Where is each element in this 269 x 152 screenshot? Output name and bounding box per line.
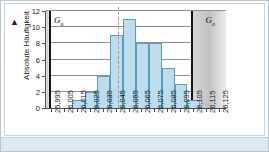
y-axis-arrow: ▲ <box>10 18 19 27</box>
y-tick-mark <box>42 11 45 12</box>
y-tick-mark <box>42 60 45 61</box>
upper-limit-label: Go <box>205 15 215 27</box>
upper-limit-sub: o <box>212 21 215 27</box>
y-tick-label: 0 <box>26 105 40 113</box>
x-tick-label: 26,055 <box>132 90 140 113</box>
y-tick-mark <box>42 108 45 109</box>
y-tick-label: 8 <box>26 40 40 48</box>
x-tick-label: 25,995 <box>54 90 62 113</box>
x-tick-label: 26,085 <box>170 90 178 113</box>
x-tick-mark <box>77 109 78 112</box>
x-tick-mark <box>167 109 168 112</box>
x-tick-mark <box>219 109 220 112</box>
y-tick-label: 4 <box>26 73 40 81</box>
y-tick-mark <box>42 76 45 77</box>
y-tick-label: 2 <box>26 89 40 97</box>
x-tick-mark <box>116 109 117 112</box>
y-tick-mark <box>42 43 45 44</box>
x-tick-label: 26,005 <box>67 90 75 113</box>
x-tick-mark <box>180 109 181 112</box>
x-tick-label: 26,105 <box>196 90 204 113</box>
lower-spec-limit-band <box>46 11 51 108</box>
y-tick-label: 12 <box>26 8 40 16</box>
x-tick-mark <box>103 109 104 112</box>
x-tick-label: 26,125 <box>222 90 230 113</box>
y-tick-mark <box>42 27 45 28</box>
x-tick-mark <box>193 109 194 112</box>
y-tick-label: 6 <box>26 57 40 65</box>
chart-card: GuGo ▲ Absolute Häufigkeit 024681012 25,… <box>4 3 265 136</box>
x-tick-label: 26,015 <box>80 90 88 113</box>
histogram-screenshot: GuGo ▲ Absolute Häufigkeit 024681012 25,… <box>0 0 269 152</box>
lower-limit-label: Gu <box>54 15 64 27</box>
x-tick-mark <box>90 109 91 112</box>
lower-limit-sub: u <box>60 21 63 27</box>
x-tick-label: 26,035 <box>106 90 114 113</box>
x-tick-mark <box>206 109 207 112</box>
x-tick-label: 26,045 <box>119 90 127 113</box>
y-tick-mark <box>42 92 45 93</box>
x-tick-label: 26,065 <box>144 90 152 113</box>
x-tick-mark <box>129 109 130 112</box>
x-tick-label: 26,095 <box>183 90 191 113</box>
x-tick-label: 26,115 <box>209 91 217 113</box>
x-tick-label: 26,075 <box>157 90 165 113</box>
x-tick-label: 26,025 <box>93 90 101 113</box>
y-tick-label: 10 <box>26 24 40 32</box>
footer-strip <box>1 137 268 151</box>
